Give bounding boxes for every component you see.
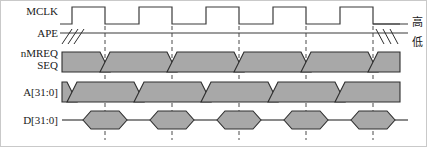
- nmreq-seq-segment-4: [301, 52, 378, 72]
- signal-label-seq: SEQ: [37, 59, 58, 71]
- nmreq-seq-segment-3: [234, 52, 311, 72]
- timing-diagram-canvas: MCLK APE nMREQ SEQ A[31:0] D[31:0]: [0, 0, 427, 147]
- address-segment-5: [335, 82, 400, 102]
- data-pulse-3: [284, 111, 328, 129]
- waveform-ape: [60, 29, 408, 44]
- address-segment-3: [201, 82, 278, 102]
- signal-label-nmreq: nMREQ: [21, 47, 58, 59]
- waveform-mclk: [60, 7, 408, 24]
- nmreq-seq-segment-2: [167, 52, 244, 72]
- address-segment-1: [67, 82, 144, 102]
- mclk-trace: [60, 7, 400, 24]
- ape-break-hatch-left: [62, 29, 84, 44]
- nmreq-seq-segment-1: [100, 52, 177, 72]
- hatch-right-2: [383, 29, 391, 44]
- address-segment-4: [268, 82, 345, 102]
- waveform-data-bus: [62, 111, 408, 129]
- level-label-high: 高: [412, 15, 423, 29]
- data-pulse-2: [217, 111, 261, 129]
- signal-label-ape: APE: [37, 27, 58, 39]
- address-segment-2: [134, 82, 211, 102]
- data-pulse-0: [83, 111, 127, 129]
- hatch-left-3: [74, 29, 84, 44]
- hatch-right-1: [376, 29, 384, 44]
- signal-label-data-bus: D[31:0]: [23, 114, 58, 126]
- data-pulse-4: [351, 111, 395, 129]
- signal-label-mclk: MCLK: [26, 5, 58, 17]
- data-pulse-1: [150, 111, 194, 129]
- hatch-left-1: [62, 29, 72, 44]
- waveform-nmreq-seq: [62, 52, 400, 72]
- level-label-low: 低: [412, 36, 423, 49]
- hatch-left-2: [68, 29, 78, 44]
- waveform-address-bus: [62, 82, 400, 102]
- signal-label-address-bus: A[31:0]: [23, 86, 58, 98]
- timing-diagram: MCLK APE nMREQ SEQ A[31:0] D[31:0]: [0, 0, 427, 147]
- hatch-right-3: [390, 29, 398, 44]
- ape-break-hatch-right: [376, 29, 398, 44]
